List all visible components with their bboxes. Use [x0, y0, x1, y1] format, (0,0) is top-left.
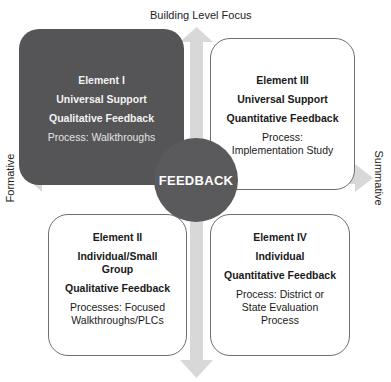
element-i-feedback: Qualitative Feedback: [49, 112, 154, 125]
element-ii-support: Individual/Small Group: [78, 250, 158, 276]
element-i-title: Element I: [78, 74, 125, 87]
feedback-circle: FEEDBACK: [154, 138, 238, 222]
axis-label-right: Summative: [373, 150, 385, 205]
element-iv-title: Element IV: [253, 231, 307, 244]
element-iv-feedback: Quantitative Feedback: [224, 269, 336, 282]
element-iv-box: Element IV Individual Quantitative Feedb…: [210, 214, 350, 356]
element-iii-feedback: Quantitative Feedback: [226, 112, 338, 125]
element-iii-support: Universal Support: [237, 93, 327, 106]
element-i-support: Universal Support: [56, 93, 146, 106]
axis-label-top: Building Level Focus: [150, 9, 252, 21]
element-ii-box: Element II Individual/Small Group Qualit…: [48, 214, 187, 356]
axis-label-left: Formative: [4, 154, 16, 203]
element-i-process: Process: Walkthroughs: [48, 131, 156, 144]
element-ii-process: Processes: Focused Walkthroughs/PLCs: [70, 301, 165, 327]
element-iii-title: Element III: [256, 74, 309, 87]
element-iv-process: Process: District or State Evaluation Pr…: [236, 288, 324, 327]
element-ii-feedback: Qualitative Feedback: [65, 282, 170, 295]
element-ii-title: Element II: [93, 231, 143, 244]
element-iii-process: Process: Implementation Study: [232, 131, 334, 157]
element-iv-support: Individual: [255, 250, 304, 263]
feedback-label: FEEDBACK: [159, 173, 234, 188]
